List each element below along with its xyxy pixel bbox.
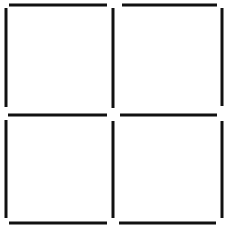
grid-lines: [6, 5, 222, 223]
square-bottom-right: [119, 121, 222, 223]
two-by-two-square-grid: [0, 0, 240, 234]
square-top-right: [120, 5, 222, 115]
square-bottom-left: [6, 120, 113, 223]
square-top-left: [6, 5, 113, 115]
